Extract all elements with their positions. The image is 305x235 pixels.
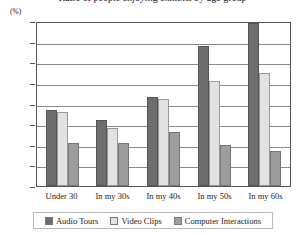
bar xyxy=(169,132,180,186)
bar xyxy=(209,81,220,186)
bar xyxy=(46,110,57,186)
bar xyxy=(57,112,68,186)
y-axis-tick-mark xyxy=(30,105,35,106)
y-axis-tick-mark xyxy=(30,22,35,23)
legend-swatch-icon xyxy=(45,217,53,225)
plot-area xyxy=(36,22,291,187)
bar-group xyxy=(241,23,289,186)
bar xyxy=(220,145,231,186)
chart-title: Ratio of people enjoying exhibits by age… xyxy=(0,0,305,5)
y-axis-tick-mark xyxy=(30,63,35,64)
y-axis-unit-label: (%) xyxy=(10,8,21,16)
bar xyxy=(259,73,270,186)
bar xyxy=(68,143,79,186)
bar xyxy=(270,151,281,186)
legend-item[interactable]: Computer Interactions xyxy=(174,216,261,226)
bar xyxy=(107,128,118,186)
legend-swatch-icon xyxy=(110,217,118,225)
bar-group xyxy=(38,23,86,186)
x-axis-tick-label: In my 50s xyxy=(189,189,240,203)
bar-groups xyxy=(37,23,290,186)
x-axis-labels: Under 30In my 30sIn my 40sIn my 50sIn my… xyxy=(36,189,291,203)
y-axis-tick-mark xyxy=(30,146,35,147)
legend-label: Audio Tours xyxy=(56,216,98,226)
bar-group xyxy=(139,23,187,186)
legend-item[interactable]: Audio Tours xyxy=(45,216,98,226)
y-axis-tick-mark xyxy=(30,43,35,44)
x-axis-tick-label: In my 60s xyxy=(240,189,291,203)
x-axis-tick-label: Under 30 xyxy=(36,189,87,203)
legend-item[interactable]: Video Clips xyxy=(110,216,161,226)
bar-group xyxy=(89,23,137,186)
bar xyxy=(158,99,169,186)
x-axis-tick-label: In my 40s xyxy=(138,189,189,203)
y-axis-tick-mark xyxy=(30,166,35,167)
x-axis-tick-label: In my 30s xyxy=(87,189,138,203)
y-axis-tick-mark xyxy=(30,187,35,188)
legend-label: Computer Interactions xyxy=(185,216,261,226)
bar xyxy=(96,120,107,186)
bar-group xyxy=(190,23,238,186)
bar xyxy=(118,143,129,186)
y-axis-tick-mark xyxy=(30,84,35,85)
legend-swatch-icon xyxy=(174,217,182,225)
bar xyxy=(248,23,259,186)
bar xyxy=(147,97,158,186)
chart-legend: Audio ToursVideo ClipsComputer Interacti… xyxy=(33,212,273,229)
y-axis-tick-mark xyxy=(30,125,35,126)
bar xyxy=(198,46,209,186)
legend-label: Video Clips xyxy=(121,216,161,226)
